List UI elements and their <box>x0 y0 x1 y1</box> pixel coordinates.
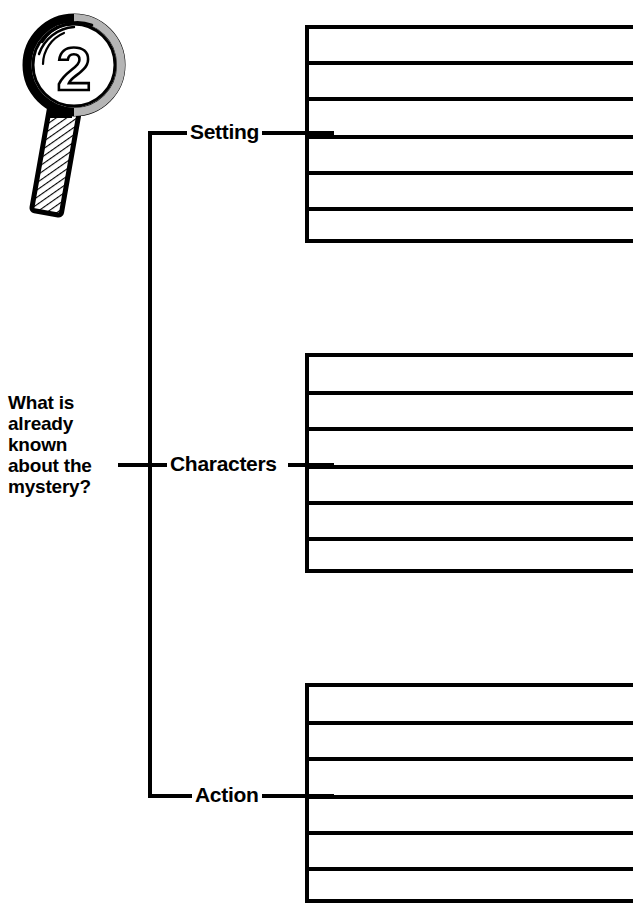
writing-line[interactable] <box>305 795 633 799</box>
magnifying-glass-icon: 2 <box>12 12 134 218</box>
writing-line[interactable] <box>305 757 633 761</box>
writing-line[interactable] <box>305 391 633 395</box>
branch-label-setting: Setting <box>187 120 262 144</box>
branch-label-characters: Characters <box>167 452 280 476</box>
writing-line[interactable] <box>305 899 633 903</box>
prompt-line-1: What is <box>8 392 74 413</box>
prompt-line-3: known <box>8 434 67 455</box>
writing-line[interactable] <box>305 25 633 29</box>
writing-block-action[interactable] <box>305 683 633 903</box>
writing-line[interactable] <box>305 501 633 505</box>
badge-step-number: 2 <box>57 34 91 103</box>
connector-setting-left <box>148 131 192 135</box>
writing-line[interactable] <box>305 569 633 573</box>
writing-line[interactable] <box>305 867 633 871</box>
writing-line[interactable] <box>305 61 633 65</box>
writing-line[interactable] <box>305 97 633 101</box>
connector-prompt-stub <box>118 463 152 467</box>
worksheet-page: 2 What is already known about the myster… <box>0 0 643 915</box>
writing-line[interactable] <box>305 537 633 541</box>
prompt-line-4: about the <box>8 455 92 476</box>
connector-action-left <box>148 794 196 798</box>
writing-line[interactable] <box>305 239 633 243</box>
writing-line[interactable] <box>305 353 633 357</box>
writing-line[interactable] <box>305 207 633 211</box>
writing-line[interactable] <box>305 683 633 687</box>
writing-line[interactable] <box>305 831 633 835</box>
writing-block-characters[interactable] <box>305 353 633 573</box>
writing-line[interactable] <box>305 721 633 725</box>
writing-line[interactable] <box>305 171 633 175</box>
branch-label-action: Action <box>192 783 262 807</box>
writing-line[interactable] <box>305 465 633 469</box>
prompt-line-5: mystery? <box>8 476 91 497</box>
writing-line[interactable] <box>305 135 633 139</box>
writing-line[interactable] <box>305 427 633 431</box>
writing-block-setting[interactable] <box>305 25 633 243</box>
page-title: What is already known about the mystery? <box>8 393 134 497</box>
prompt-line-2: already <box>8 413 73 434</box>
